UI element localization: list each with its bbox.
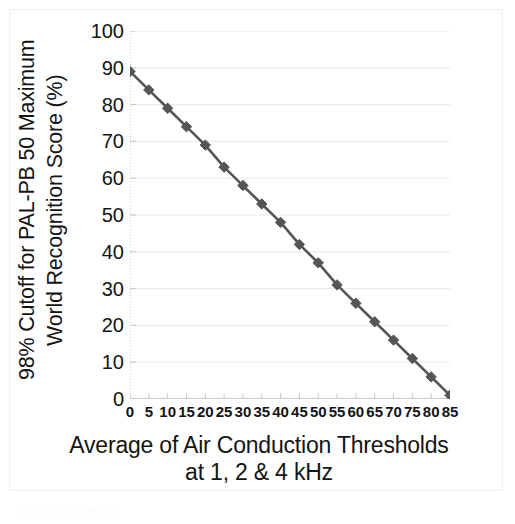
x-tick-label: 20: [197, 404, 214, 419]
y-tick-label: 70: [78, 131, 124, 151]
x-tick-label: 80: [423, 404, 440, 419]
x-tick-label: 60: [348, 404, 365, 419]
x-tick-label: 50: [310, 404, 327, 419]
y-tick-label: 50: [78, 205, 124, 225]
figure-container: 98% Cutoff for PAL-PB 50 Maximum World R…: [0, 0, 515, 524]
x-tick-label: 5: [145, 404, 153, 419]
y-tick-label: 60: [78, 168, 124, 188]
y-tick-label: 90: [78, 58, 124, 78]
y-tick-label: 100: [78, 21, 124, 41]
data-line: [130, 71, 450, 395]
x-tick-label: 65: [366, 404, 383, 419]
y-axis-tick-labels: 0102030405060708090100: [76, 31, 124, 399]
x-axis-title-line-1: Average of Air Conduction Thresholds: [24, 432, 494, 459]
x-tick-label: 0: [126, 404, 134, 419]
y-axis-title-line-2: World Recognition Score (%): [36, 0, 76, 420]
line-chart-svg: [130, 31, 450, 399]
x-axis-title-line-2: at 1, 2 & 4 kHz: [24, 459, 494, 486]
x-tick-label: 75: [404, 404, 421, 419]
x-tick-label: 85: [442, 404, 459, 419]
x-axis-title: Average of Air Conduction Thresholds at …: [24, 432, 494, 486]
y-tick-label: 40: [78, 242, 124, 262]
y-axis-title: 98% Cutoff for PAL-PB 50 Maximum World R…: [0, 0, 84, 420]
x-tick-label: 70: [385, 404, 402, 419]
plot-area: [130, 31, 450, 399]
y-tick-label: 10: [78, 352, 124, 372]
x-axis-tick-labels: 0510152025303540455055606570758085: [130, 404, 450, 426]
y-tick-label: 20: [78, 315, 124, 335]
x-tick-label: 55: [329, 404, 346, 419]
y-tick-label: 0: [78, 389, 124, 409]
x-tick-label: 35: [253, 404, 270, 419]
y-tick-label: 30: [78, 279, 124, 299]
x-tick-label: 10: [159, 404, 176, 419]
ghost-caption: Fig. 2 Relationship: [18, 505, 318, 519]
x-tick-label: 15: [178, 404, 195, 419]
x-tick-label: 25: [216, 404, 233, 419]
x-tick-label: 30: [235, 404, 252, 419]
x-tick-label: 45: [291, 404, 308, 419]
x-tick-label: 40: [272, 404, 289, 419]
gridlines: [130, 31, 450, 399]
y-tick-label: 80: [78, 95, 124, 115]
